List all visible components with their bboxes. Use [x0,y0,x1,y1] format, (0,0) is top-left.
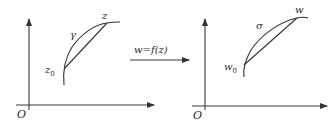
mapping-diagram: O γ z z0 w=f(z) O σ w w0 [0,0,336,131]
chord-w0-w [244,18,297,65]
point-z-label: z [101,10,108,21]
z-plane-origin-label: O [17,108,26,121]
mapping-label: w=f(z) [134,44,168,55]
z-plane: O γ z z0 [16,10,154,121]
point-w-label: w [295,4,304,15]
w-plane-origin-label: O [193,109,202,122]
curve-sigma [244,17,308,77]
curve-sigma-label: σ [256,20,264,31]
mapping-arrow-group: w=f(z) [130,44,189,60]
point-w0-label: w0 [224,61,237,75]
point-z0-subscript: 0 [50,70,54,78]
curve-gamma-label: γ [70,29,76,40]
point-w0-subscript: 0 [233,67,237,75]
point-z0-label: z0 [44,64,55,78]
w-plane: O σ w w0 [192,4,327,122]
